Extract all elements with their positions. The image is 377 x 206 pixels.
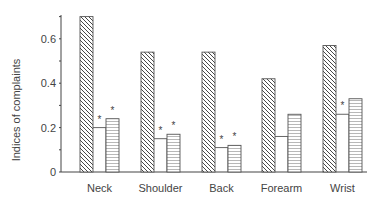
x-tick-label: Wrist [330, 182, 355, 194]
bar [228, 145, 241, 172]
bar [275, 136, 288, 172]
bar [80, 17, 93, 172]
y-tick-label: 0.6 [41, 33, 56, 45]
bar-group-neck: ** [80, 17, 119, 172]
x-tick-label: Back [209, 182, 234, 194]
significance-marker: * [341, 100, 345, 111]
bar [93, 128, 106, 172]
x-axis-labels: NeckShoulderBackForearmWrist [87, 182, 355, 194]
bar [215, 148, 228, 172]
bar [154, 139, 167, 172]
bar [262, 79, 275, 172]
bar [202, 52, 215, 172]
significance-marker: * [111, 105, 115, 116]
bar-group-wrist: * [323, 45, 362, 172]
x-tick-label: Neck [87, 182, 113, 194]
significance-marker: * [172, 120, 176, 131]
y-tick-label: 0.2 [41, 122, 56, 134]
significance-marker: * [98, 114, 102, 125]
bars: ******* [80, 17, 362, 172]
y-tick-label: 0 [50, 166, 56, 178]
bar-chart: Indices of complaints 00.20.40.6 *******… [0, 0, 377, 206]
bar-group-forearm [262, 79, 301, 172]
x-tick-label: Shoulder [138, 182, 182, 194]
bar-group-back: ** [202, 52, 241, 172]
y-tick-label: 0.4 [41, 77, 56, 89]
bar [167, 134, 180, 172]
bar [106, 119, 119, 172]
y-axis-label: Indices of complaints [10, 58, 22, 161]
x-tick-label: Forearm [261, 182, 303, 194]
bar-group-shoulder: ** [141, 52, 180, 172]
significance-marker: * [220, 134, 224, 145]
bar [288, 114, 301, 172]
bar [336, 114, 349, 172]
bar [141, 52, 154, 172]
significance-marker: * [159, 125, 163, 136]
significance-marker: * [233, 131, 237, 142]
bar [349, 99, 362, 172]
bar [323, 45, 336, 172]
